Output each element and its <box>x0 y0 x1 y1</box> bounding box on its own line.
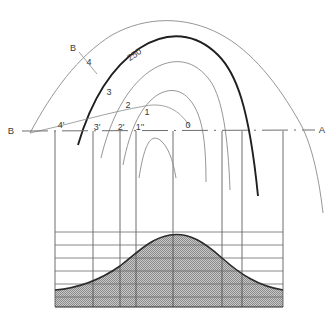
cross-section-svg: B A B 250 4 3 2 1 4' 3' 2' 1'' 0 <box>0 0 333 314</box>
label-tick-3: 3 <box>106 87 111 97</box>
diagram-canvas: B A B 250 4 3 2 1 4' 3' 2' 1'' 0 <box>0 0 333 314</box>
core-contour-curve <box>139 138 176 178</box>
label-tick-1: 1 <box>144 107 149 117</box>
inner-contour-curve <box>123 91 206 182</box>
label-tick-2: 2 <box>125 100 130 110</box>
label-baseline-tick-4p: 4' <box>58 120 65 130</box>
label-baseline-tick-2p: 2' <box>118 122 125 132</box>
label-baseline-right: A <box>319 124 326 135</box>
label-section-marker-b: B <box>70 43 76 53</box>
label-tick-4: 4 <box>86 57 91 67</box>
label-baseline-tick-1pp: 1'' <box>136 122 145 132</box>
contour-250-bold-curve <box>78 36 258 196</box>
label-baseline-tick-0: 0 <box>185 120 190 130</box>
label-baseline-left: B <box>8 125 14 136</box>
baseline-ab <box>22 130 315 131</box>
label-baseline-tick-3p: 3' <box>94 122 101 132</box>
